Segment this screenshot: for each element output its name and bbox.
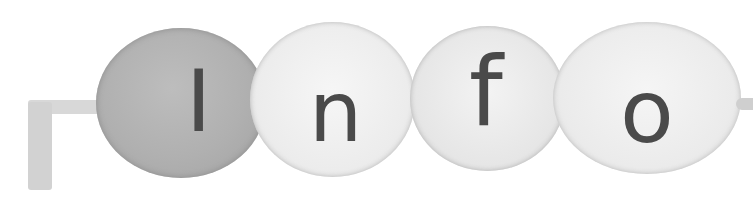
info-banner: I n f o [0, 0, 753, 202]
bracket-tail-right [736, 98, 753, 110]
title-letter-o: o [620, 68, 674, 156]
title-letter-i: I [186, 58, 211, 144]
bracket-line-vertical [28, 102, 52, 190]
title-letter-f: f [469, 44, 503, 140]
watercolor-blob-1 [96, 28, 266, 178]
title-letter-n: n [309, 70, 362, 154]
